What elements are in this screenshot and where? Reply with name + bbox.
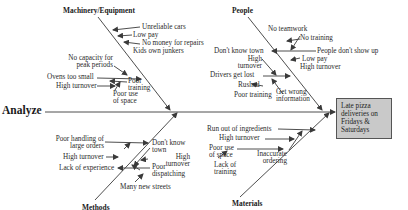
cause-label: High turnover (63, 154, 104, 161)
cause-label: Ovens too small (47, 74, 94, 81)
category-people: People (232, 6, 253, 15)
cause-label: Kids own junkers (133, 48, 184, 55)
category-methods: Methods (82, 203, 110, 210)
analyze-title: Analyze (2, 104, 42, 116)
fishbone-diagram: Analyze Machinery/Equipment People Metho… (0, 0, 408, 210)
effect-box: Late pizza deliveries on Fridays & Satur… (336, 98, 392, 139)
cause-label: High turnover (56, 83, 97, 90)
category-machinery: Machinery/Equipment (63, 6, 135, 15)
cause-label: Poor handling of large orders (44, 136, 104, 151)
cause-label: Run out of ingredients (207, 126, 271, 133)
cause-label: High turnover (228, 56, 262, 71)
cause-label: Lack of training (214, 162, 236, 177)
cause-label: High turnover (300, 64, 341, 71)
cause-label: Poor training (234, 92, 272, 99)
cause-label: No teamwork (268, 26, 307, 33)
category-materials: Materials (232, 199, 262, 208)
cause-label: Lack of experience (59, 165, 114, 172)
cause-label: Rushed (238, 82, 260, 89)
cause-label: Poor use of space (209, 145, 234, 160)
cause-label: Inaccurate ordering (243, 151, 287, 166)
cause-label: Poor use of space (113, 91, 138, 106)
cause-label: No training (300, 35, 333, 42)
cause-label: Get wrong information (276, 89, 310, 104)
cause-label: Many new streets (120, 184, 171, 191)
cause-label: Poor dispatching (152, 164, 185, 179)
cause-label: Drivers get lost (210, 72, 254, 79)
cause-label: No capacity for peak periods (68, 55, 113, 70)
cause-label: High turnover (219, 135, 260, 142)
